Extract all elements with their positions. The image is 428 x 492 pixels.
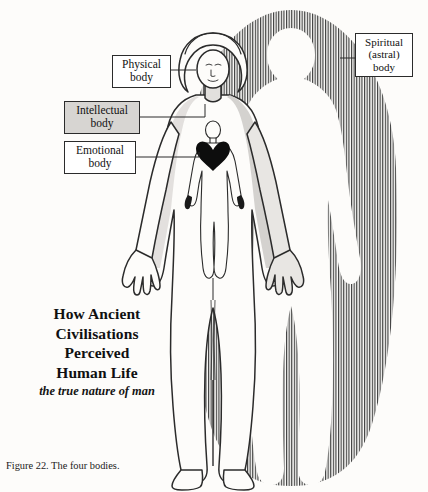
label-spiritual-line-2: (astral) bbox=[360, 48, 408, 60]
label-intellectual-line-2: body bbox=[69, 117, 135, 130]
title-subtitle: the true nature of man bbox=[18, 384, 176, 399]
label-intellectual-line-1: Intellectual bbox=[69, 104, 135, 117]
label-spiritual-body[interactable]: Spiritual (astral) body bbox=[355, 33, 413, 77]
label-physical-body[interactable]: Physical body bbox=[112, 55, 171, 88]
title-line-2: Civilisations bbox=[18, 324, 176, 344]
figure-four-bodies: Physical body Intellectual body Emotiona… bbox=[0, 0, 428, 492]
label-physical-line-1: Physical bbox=[117, 58, 166, 71]
figure-caption: Figure 22. The four bodies. bbox=[6, 460, 120, 471]
label-emotional-body[interactable]: Emotional body bbox=[64, 141, 136, 174]
title-block: How Ancient Civilisations Perceived Huma… bbox=[18, 304, 176, 399]
title-line-4: Human Life bbox=[18, 363, 176, 383]
title-line-3: Perceived bbox=[18, 343, 176, 363]
label-spiritual-line-3: body bbox=[360, 61, 408, 73]
label-physical-line-2: body bbox=[117, 71, 166, 84]
label-emotional-line-2: body bbox=[69, 157, 131, 170]
label-intellectual-body[interactable]: Intellectual body bbox=[64, 101, 140, 134]
title-line-1: How Ancient bbox=[18, 304, 176, 324]
label-emotional-line-1: Emotional bbox=[69, 144, 131, 157]
label-spiritual-line-1: Spiritual bbox=[360, 36, 408, 48]
